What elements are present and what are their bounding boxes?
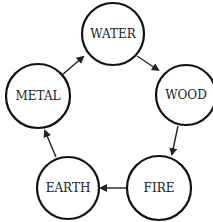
arrow-wood-to-fire: [172, 126, 178, 154]
arrow-line: [45, 131, 56, 157]
arrow-line: [62, 57, 83, 75]
arrow-line: [172, 126, 178, 154]
node-label: WOOD: [165, 88, 207, 102]
arrow-line: [137, 56, 158, 70]
node-wood: WOOD: [156, 65, 213, 125]
arrow-metal-to-water: [62, 57, 83, 75]
node-label: WATER: [90, 27, 137, 41]
arrow-earth-to-metal: [45, 131, 56, 157]
node-earth: EARTH: [37, 157, 99, 219]
node-label: METAL: [15, 89, 60, 103]
node-label: EARTH: [46, 181, 91, 195]
node-metal: METAL: [6, 64, 70, 128]
node-fire: FIRE: [127, 156, 191, 220]
five-elements-cycle-diagram: WATERWOODFIREEARTHMETAL: [0, 0, 213, 222]
node-water: WATER: [82, 3, 144, 65]
arrow-water-to-wood: [137, 56, 158, 70]
node-label: FIRE: [144, 181, 175, 195]
